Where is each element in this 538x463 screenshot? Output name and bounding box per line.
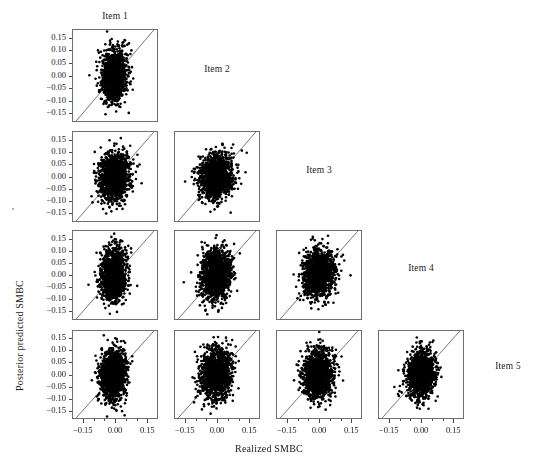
x-tick-label: 0.15: [331, 425, 371, 435]
y-tick-label: −0.05: [30, 381, 66, 391]
y-tick-label: −0.10: [30, 293, 66, 303]
x-minor-tick-mark: [126, 419, 127, 421]
x-tick-mark: [319, 419, 320, 423]
x-minor-tick-mark: [330, 419, 331, 421]
scatter-panel-item4-vs-item5: [378, 330, 464, 419]
x-tick-mark: [83, 419, 84, 423]
y-tick-label: 0.05: [30, 57, 66, 67]
point-cloud: [277, 331, 361, 418]
point-cloud: [277, 231, 361, 319]
y-tick-label: −0.10: [30, 95, 66, 105]
x-tick-mark: [217, 419, 218, 423]
y-tick-label: 0.15: [30, 233, 66, 243]
y-tick-mark: [69, 362, 72, 363]
x-tick-label: 0.15: [229, 425, 269, 435]
point-cloud: [73, 231, 157, 319]
x-minor-tick-mark: [196, 419, 197, 421]
y-tick-label: 0.10: [30, 344, 66, 354]
x-tick-mark: [389, 419, 390, 423]
y-tick-label: −0.05: [30, 82, 66, 92]
y-tick-mark: [69, 63, 72, 64]
x-tick-mark: [453, 419, 454, 423]
y-tick-mark: [69, 113, 72, 114]
x-tick-mark: [421, 419, 422, 423]
x-minor-tick-mark: [94, 419, 95, 421]
y-tick-label: 0.00: [30, 171, 66, 181]
scatter-panel-item3-vs-item5: [276, 330, 362, 419]
y-tick-label: 0.00: [30, 369, 66, 379]
x-tick-mark: [185, 419, 186, 423]
y-tick-mark: [69, 287, 72, 288]
y-tick-mark: [69, 213, 72, 214]
x-axis-title: Realized SMBC: [0, 443, 538, 454]
x-minor-tick-mark: [410, 419, 411, 421]
item-label-4: Item 4: [378, 263, 464, 273]
y-tick-mark: [69, 251, 72, 252]
y-tick-mark: [69, 38, 72, 39]
y-tick-mark: [69, 299, 72, 300]
x-minor-tick-mark: [443, 419, 444, 421]
x-tick-mark: [287, 419, 288, 423]
item-label-2: Item 2: [174, 64, 260, 74]
y-tick-mark: [69, 140, 72, 141]
x-minor-tick-mark: [228, 419, 229, 421]
scatter-plot-matrix-figure: 0.150.100.050.00−0.05−0.10−0.150.150.100…: [0, 0, 538, 463]
x-minor-tick-mark: [308, 419, 309, 421]
scatter-panel-item2-vs-item5: [174, 330, 260, 419]
y-tick-label: 0.05: [30, 356, 66, 366]
y-tick-mark: [69, 177, 72, 178]
x-minor-tick-mark: [432, 419, 433, 421]
point-cloud: [175, 331, 259, 418]
y-tick-label: −0.10: [30, 393, 66, 403]
y-tick-label: −0.15: [30, 305, 66, 315]
item-label-3: Item 3: [276, 165, 362, 175]
x-minor-tick-mark: [206, 419, 207, 421]
y-tick-label: −0.15: [30, 207, 66, 217]
x-tick-label: 0.15: [127, 425, 167, 435]
x-minor-tick-mark: [104, 419, 105, 421]
y-tick-label: −0.05: [30, 183, 66, 193]
y-tick-mark: [69, 399, 72, 400]
y-tick-label: 0.15: [30, 32, 66, 42]
point-cloud: [175, 231, 259, 319]
y-tick-label: −0.15: [30, 107, 66, 117]
point-cloud: [175, 132, 259, 221]
scatter-panel-item2-vs-item4: [174, 230, 260, 320]
y-tick-mark: [69, 263, 72, 264]
y-tick-mark: [69, 189, 72, 190]
point-cloud: [73, 132, 157, 221]
point-cloud: [73, 30, 157, 121]
y-tick-mark: [69, 88, 72, 89]
y-tick-label: 0.00: [30, 70, 66, 80]
y-tick-mark: [69, 311, 72, 312]
y-tick-label: 0.15: [30, 134, 66, 144]
y-tick-mark: [69, 101, 72, 102]
y-tick-label: −0.15: [30, 405, 66, 415]
scatter-panel-item1-vs-item2: [72, 29, 158, 122]
y-tick-mark: [69, 275, 72, 276]
x-tick-label: 0.15: [433, 425, 473, 435]
y-tick-label: 0.10: [30, 44, 66, 54]
decorative-speck: [12, 208, 14, 210]
y-tick-label: 0.05: [30, 158, 66, 168]
item-label-1: Item 1: [72, 11, 158, 21]
y-tick-label: −0.05: [30, 281, 66, 291]
item-label-5: Item 5: [478, 361, 538, 371]
x-tick-mark: [351, 419, 352, 423]
y-tick-mark: [69, 239, 72, 240]
y-tick-mark: [69, 201, 72, 202]
y-tick-mark: [69, 50, 72, 51]
x-minor-tick-mark: [341, 419, 342, 421]
scatter-panel-item1-vs-item4: [72, 230, 158, 320]
x-tick-mark: [115, 419, 116, 423]
x-minor-tick-mark: [239, 419, 240, 421]
x-tick-mark: [249, 419, 250, 423]
y-tick-label: 0.10: [30, 146, 66, 156]
y-tick-label: 0.05: [30, 257, 66, 267]
scatter-panel-item2-vs-item3: [174, 131, 260, 222]
y-tick-mark: [69, 152, 72, 153]
y-tick-label: 0.00: [30, 269, 66, 279]
y-tick-mark: [69, 411, 72, 412]
x-minor-tick-mark: [400, 419, 401, 421]
y-tick-mark: [69, 338, 72, 339]
